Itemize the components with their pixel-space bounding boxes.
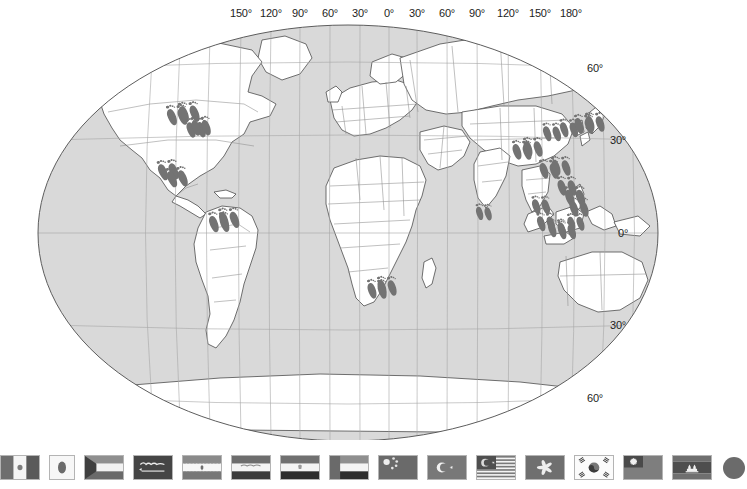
longitude-label: 60° — [439, 8, 455, 19]
flag-legend-strip — [0, 446, 697, 489]
latitude-label: 60° — [587, 63, 603, 74]
flag-kuwait — [84, 455, 124, 480]
flag-mexico — [0, 455, 40, 480]
flag-iran — [182, 455, 222, 480]
longitude-label: 90° — [469, 8, 485, 19]
flag-cambodia — [672, 455, 712, 480]
longitude-label: 90° — [292, 8, 308, 19]
flag-saudi-arabia — [133, 455, 173, 480]
flag-south-korea — [574, 455, 614, 480]
landmass — [60, 68, 110, 98]
map-area: 150°120°90°60°30°0°30°60°90°120°150°180°… — [0, 0, 697, 440]
longitude-label: 150° — [529, 8, 551, 19]
latitude-label: 0° — [618, 228, 628, 239]
flag-taiwan — [623, 455, 663, 480]
flag-iraq — [231, 455, 271, 480]
flag-turkey — [427, 455, 467, 480]
latitude-label: 30° — [610, 135, 626, 146]
flag-japan-small — [49, 455, 75, 480]
latitude-label: 30° — [610, 320, 626, 331]
longitude-label: 180° — [560, 8, 582, 19]
longitude-label: 30° — [352, 8, 368, 19]
flag-egypt — [280, 455, 320, 480]
longitude-label: 150° — [230, 8, 252, 19]
landmass — [658, 294, 672, 316]
flag-hong-kong — [525, 455, 565, 480]
flag-japan — [721, 455, 747, 480]
japan-sun-disc — [723, 457, 745, 479]
longitude-label: 0° — [384, 8, 394, 19]
flag-china — [378, 455, 418, 480]
longitude-label: 120° — [260, 8, 282, 19]
latitude-label: 60° — [587, 393, 603, 404]
flag-united-arab-emirates — [329, 455, 369, 480]
flag-malaysia — [476, 455, 516, 480]
longitude-label: 30° — [409, 8, 425, 19]
longitude-label: 60° — [322, 8, 338, 19]
longitude-label: 120° — [497, 8, 519, 19]
